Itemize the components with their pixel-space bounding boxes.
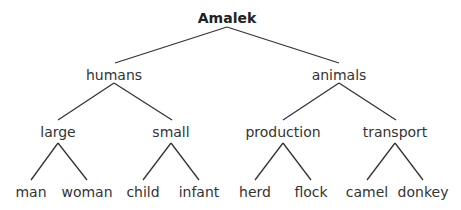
leaf-man: man [15,184,46,200]
edge-large-man [31,143,58,180]
node-production: production [245,124,320,140]
leaf-donkey: donkey [398,184,449,200]
edge-transport-camel [367,143,395,180]
leaf-camel: camel [346,184,388,200]
node-large: large [40,124,75,140]
edge-small-child [143,143,171,180]
leaf-infant: infant [179,184,220,200]
leaf-woman: woman [61,184,112,200]
node-root: Amalek [198,10,256,26]
tree-edges [0,0,461,210]
leaf-child: child [126,184,159,200]
node-humans: humans [86,67,142,83]
edge-animals-transport [339,83,396,120]
edge-amalek-animals [227,27,339,63]
edge-small-infant [171,143,199,180]
leaf-herd: herd [239,184,271,200]
edge-humans-small [114,83,172,120]
edge-production-herd [255,143,283,180]
edge-animals-production [283,83,339,120]
edge-amalek-humans [115,27,227,63]
node-small: small [152,124,189,140]
edge-transport-donkey [395,143,423,180]
leaf-flock: flock [294,184,327,200]
node-animals: animals [312,67,367,83]
edge-production-flock [283,143,311,180]
edge-humans-large [58,83,114,120]
node-transport: transport [363,124,428,140]
edge-large-woman [58,143,87,180]
